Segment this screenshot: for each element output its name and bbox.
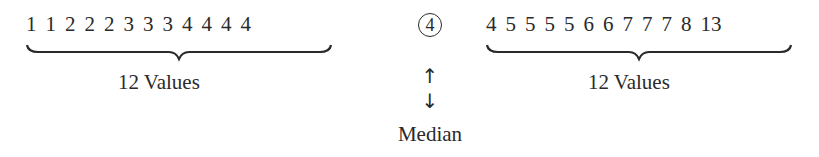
upper-half-values: 4555566777813 [486,12,792,37]
upper-half-count-label: 12 Values [588,70,670,95]
underbrace-icon [26,44,332,64]
value: 6 [603,12,614,37]
median-label: Median [380,122,480,147]
value: 3 [124,12,135,37]
value: 4 [221,12,232,37]
value: 5 [564,12,575,37]
value: 6 [584,12,595,37]
up-arrow-icon: ↑ [380,65,480,87]
upper-half-group: 4555566777813 12 Values [486,12,792,37]
value: 7 [662,12,673,37]
value: 3 [143,12,154,37]
lower-half-values: 112223334444 [26,12,332,37]
median-value-circled: 4 [418,13,442,37]
value: 3 [163,12,174,37]
value: 4 [241,12,252,37]
value: 7 [623,12,634,37]
value: 2 [104,12,115,37]
value: 1 [46,12,57,37]
value: 1 [26,12,37,37]
value: 2 [65,12,76,37]
value: 13 [701,12,722,37]
lower-half-count-label: 12 Values [118,70,200,95]
lower-half-group: 112223334444 12 Values [26,12,332,37]
underbrace-icon [486,44,792,64]
value: 7 [642,12,653,37]
value: 5 [506,12,517,37]
value: 2 [85,12,96,37]
value: 8 [681,12,692,37]
down-arrow-icon: ↓ [380,90,480,112]
median-group: 4 ↑ ↓ Median [380,10,480,37]
value: 5 [525,12,536,37]
value: 4 [182,12,193,37]
value: 4 [202,12,213,37]
value: 4 [486,12,497,37]
value: 5 [545,12,556,37]
